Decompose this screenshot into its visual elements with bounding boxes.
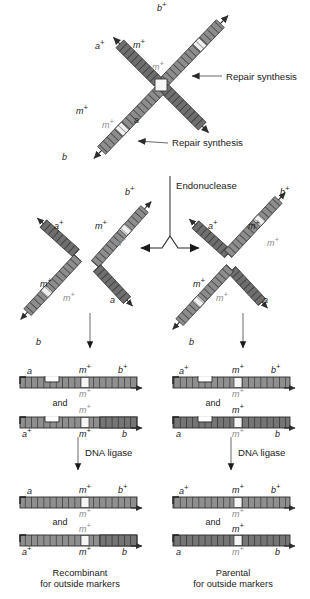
duplex-label-right-pre-bottom-mid: m+ [232,429,244,439]
left-nicked-duplex-bottom [20,416,142,470]
duplex-label-right-post-bottom-mid: m+ [232,547,244,557]
marker-label-a-midright: a [263,295,268,305]
duplex-label-right-post-bottom-over: m+ [232,524,244,534]
middle-right-structure [169,189,289,348]
duplex-label-right-post-top-left: a+ [179,486,188,496]
duplex-label-left-post-top-left: a [27,486,32,496]
and-connector-left-lower: and [52,517,67,527]
duplex-label-left-pre-top-right: b+ [118,365,127,375]
marker-label-m-plus-midleft-lower: m+ [40,279,52,289]
duplex-label-right-post-bottom-right: b [275,547,280,557]
and-connector-left-upper: and [52,398,67,408]
right-ligated-duplex-top [173,497,295,508]
duplex-label-left-post-bottom-over: m+ [79,524,91,534]
duplex-label-left-post-bottom-left: a+ [22,547,31,557]
duplex-label-right-pre-top-under: m+ [232,389,244,399]
marker-label-a-plus-top: a+ [95,41,104,51]
marker-label-m-plus-midleft-hetero2: m+ [63,293,75,303]
duplex-label-left-post-top-mid: m+ [79,485,91,495]
marker-label-m-plus-midright-upper: m+ [248,221,260,231]
marker-label-a-plus-midright: a+ [208,221,217,231]
duplex-label-right-pre-bottom-over: m+ [232,405,244,415]
marker-label-m-plus-top-upper: m+ [133,40,145,50]
duplex-label-left-pre-bottom-over: m+ [79,405,91,415]
marker-label-a-midleft: a [110,295,115,305]
duplex-label-left-pre-top-under: m+ [79,389,91,399]
caption-right-line1: Parental [193,568,273,579]
duplex-label-left-pre-bottom-right: b [122,429,127,439]
dna-ligase-label-right: DNA ligase [238,447,285,458]
repair-synthesis-callout-bottom [138,141,168,143]
marker-label-m-plus-top-hetero: m+ [152,62,164,72]
marker-label-m-plus-midright-hetero2: m+ [216,293,228,303]
repair-synthesis-label-top: Repair synthesis [226,71,297,82]
duplex-label-right-post-top-under: m+ [232,509,244,519]
duplex-label-left-post-top-under: m+ [79,509,91,519]
marker-label-m-plus-midright-lower: m+ [193,279,205,289]
duplex-label-right-post-top-right: b+ [271,485,280,495]
left-ligated-duplex-bottom [20,535,142,546]
duplex-label-right-pre-top-right: b+ [271,365,280,375]
left-nicked-duplex-top [20,376,142,388]
duplex-label-left-pre-top-mid: m+ [79,365,91,375]
duplex-label-right-post-bottom-left: a [176,547,181,557]
endonuclease-label: Endonuclease [176,180,237,191]
duplex-label-left-post-top-right: b+ [118,485,127,495]
duplex-label-right-pre-bottom-left: a [176,429,181,439]
duplex-label-left-pre-bottom-left: a+ [22,429,31,439]
duplex-label-left-pre-top-left: a [27,366,32,376]
marker-label-b-midleft: b [36,337,41,347]
marker-label-b-plus-midright: b+ [280,187,289,197]
marker-label-a-plus-midleft: a+ [54,221,63,231]
right-nicked-duplex-top [173,376,295,388]
marker-label-m-plus-midright-hetero: m+ [267,238,279,248]
duplex-label-right-pre-bottom-right: b [275,429,280,439]
dna-ligase-label-left: DNA ligase [85,447,132,458]
marker-label-m-plus-midleft-upper: m+ [95,221,107,231]
right-ligated-duplex-bottom [173,535,295,546]
duplex-label-right-pre-top-mid: m+ [232,365,244,375]
marker-label-b-plus-top: b+ [157,3,166,13]
duplex-label-right-pre-top-left: a+ [179,366,188,376]
caption-left-line2: for outside markers [40,579,120,590]
duplex-label-right-post-top-mid: m+ [232,485,244,495]
marker-label-m-plus-top-hetero2: m+ [102,120,114,130]
right-nicked-duplex-bottom [173,416,295,470]
and-connector-right-lower: and [205,517,220,527]
caption-left: Recombinant for outside markers [40,568,120,590]
marker-label-b-top: b [62,152,67,162]
marker-label-b-plus-midleft: b+ [125,187,134,197]
caption-right: Parental for outside markers [193,568,273,590]
marker-label-m-plus-midleft-hetero: m+ [114,238,126,248]
caption-left-line1: Recombinant [40,568,120,579]
duplex-label-left-post-bottom-right: b [122,547,127,557]
marker-label-a-top: a [134,115,139,125]
marker-label-b-midright: b [189,337,194,347]
and-connector-right-upper: and [205,398,220,408]
duplex-label-left-pre-bottom-mid: m+ [79,429,91,439]
figure-canvas: b+ a+ m+ m+ m+ m+ a b Repair synthesis R… [0,0,310,599]
middle-left-structure [17,198,155,348]
left-ligated-duplex-top [20,497,142,508]
caption-right-line2: for outside markers [193,579,273,590]
duplex-label-left-post-bottom-mid: m+ [79,547,91,557]
repair-synthesis-label-bottom: Repair synthesis [172,137,243,148]
marker-label-m-plus-top-lower: m+ [76,106,88,116]
